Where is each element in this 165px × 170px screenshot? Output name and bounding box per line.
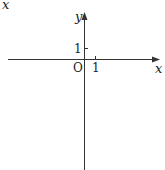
y-tick-label: 1	[74, 42, 82, 56]
y-axis-arrow-icon	[82, 12, 88, 20]
x-tick-label: 1	[92, 61, 100, 75]
origin-label: O	[73, 61, 83, 75]
y-axis-label: y	[74, 9, 83, 24]
x-axis-label: x	[155, 61, 163, 76]
corner-label: x	[2, 0, 10, 12]
coordinate-plane: x y x 1 1 O	[0, 0, 165, 170]
